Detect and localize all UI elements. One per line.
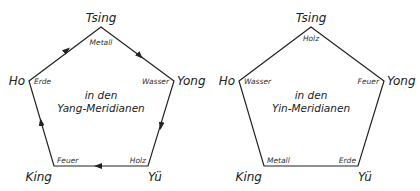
- center-label-line1: in den: [85, 89, 118, 101]
- vertex-bottom-left: King: [26, 170, 53, 184]
- vertex-right: Yong: [387, 74, 416, 88]
- element-right: Wasser: [142, 77, 170, 86]
- center-label-line1: in den: [295, 89, 328, 101]
- vertex-bottom-right: Yü: [358, 170, 372, 184]
- vertex-bottom-left: King: [236, 170, 263, 184]
- element-bottom-right: Erde: [339, 156, 357, 165]
- element-right: Feuer: [358, 77, 380, 86]
- element-top: Metall: [90, 38, 114, 47]
- five-elements-diagrams: Tsing Ho Yong King Yü Metall Erde Wasser…: [0, 0, 420, 191]
- center-label-line2: Yin-Meridianen: [272, 102, 350, 114]
- element-left: Wasser: [244, 77, 272, 86]
- yang-pentagon: Tsing Ho Yong King Yü Metall Erde Wasser…: [9, 11, 206, 184]
- vertex-left: Ho: [9, 74, 25, 88]
- vertex-left: Ho: [219, 74, 235, 88]
- vertex-top: Tsing: [86, 11, 117, 25]
- center-label-line2: Yang-Meridianen: [57, 102, 145, 114]
- vertex-right: Yong: [177, 74, 206, 88]
- vertex-top: Tsing: [296, 11, 327, 25]
- element-bottom-left: Metall: [267, 156, 291, 165]
- element-top: Holz: [303, 34, 320, 43]
- element-bottom-left: Feuer: [57, 156, 79, 165]
- element-bottom-right: Holz: [130, 156, 147, 165]
- yin-pentagon: Tsing Ho Yong King Yü Holz Wasser Feuer …: [219, 11, 416, 184]
- vertex-bottom-right: Yü: [148, 170, 162, 184]
- element-left: Erde: [34, 77, 52, 86]
